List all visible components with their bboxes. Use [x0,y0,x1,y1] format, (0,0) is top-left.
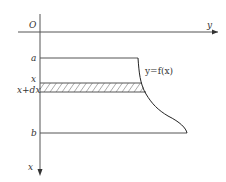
x-axis-label: x [28,162,33,172]
label-a: a [31,53,36,63]
y-axis-arrow-icon [212,30,218,35]
origin-label: O [29,20,37,30]
label-x-dx: x+dx [17,85,40,95]
label-x: x [31,74,36,84]
integration-diagram: O y x a x x+dx b y=f(x) [0,0,226,182]
y-axis-label: y [206,20,213,30]
label-b: b [31,128,37,138]
curve-label: y=f(x) [144,66,173,76]
x-axis-arrow-icon [38,169,43,176]
hatched-strip [40,83,146,92]
